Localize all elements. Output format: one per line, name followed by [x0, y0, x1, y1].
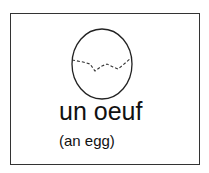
- crack-line: [72, 58, 131, 71]
- english-translation: (an egg): [59, 133, 115, 148]
- french-word: un oeuf: [59, 99, 142, 124]
